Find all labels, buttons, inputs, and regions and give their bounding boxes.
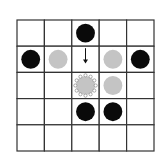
board-cell-r2-c4[interactable] [127, 72, 154, 98]
board-cell-r2-c0[interactable] [17, 72, 44, 98]
black-stone-r3-c2[interactable] [76, 102, 95, 121]
game-board [16, 19, 153, 150]
highlight-ring-dot [89, 93, 92, 96]
highlight-ring-dot [93, 79, 96, 82]
board-cell-r4-c0[interactable] [17, 125, 44, 151]
highlight-ring-dot [94, 84, 97, 87]
gray-stone-r1-c1[interactable] [49, 50, 68, 69]
black-stone-r1-c0[interactable] [21, 50, 40, 69]
board-grid [16, 19, 155, 152]
highlight-ring-dot [93, 89, 96, 92]
board-cell-r3-c4[interactable] [127, 99, 154, 125]
board-cell-r0-c3[interactable] [99, 20, 126, 46]
board-cell-r4-c4[interactable] [127, 125, 154, 151]
board-cell-r3-c1[interactable] [44, 99, 71, 125]
highlighted-gray-stone-r2-c2[interactable] [76, 76, 95, 95]
gray-stone-r2-c3[interactable] [103, 76, 122, 95]
board-cell-r0-c1[interactable] [44, 20, 71, 46]
board-cell-r4-c1[interactable] [44, 125, 71, 151]
board-cell-r4-c2[interactable] [72, 125, 99, 151]
board-cell-r0-c4[interactable] [127, 20, 154, 46]
black-stone-r3-c3[interactable] [103, 102, 122, 121]
highlight-ring-dot [75, 89, 78, 92]
highlight-ring-dot [75, 79, 78, 82]
highlight-ring-dot [79, 75, 82, 78]
highlight-ring-dot [89, 75, 92, 78]
highlight-ring-dot [74, 84, 77, 87]
board-cell-r2-c1[interactable] [44, 72, 71, 98]
board-cell-r4-c3[interactable] [99, 125, 126, 151]
highlight-ring-dot [84, 94, 87, 97]
black-stone-r1-c4[interactable] [131, 50, 150, 69]
black-stone-r0-c2[interactable] [76, 24, 95, 43]
highlight-ring-dot [79, 93, 82, 96]
gray-stone-r1-c3[interactable] [103, 50, 122, 69]
highlight-ring-dot [84, 74, 87, 77]
board-cell-r0-c0[interactable] [17, 20, 44, 46]
board-cell-r3-c0[interactable] [17, 99, 44, 125]
